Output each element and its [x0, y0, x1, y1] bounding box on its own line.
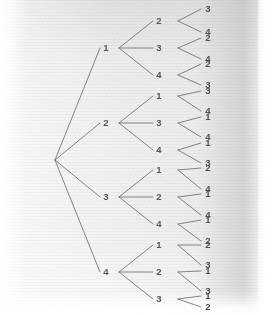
- edge-level2-34-to-leaf-1: [178, 220, 201, 224]
- edge-level2-14-to-leaf-2: [178, 64, 201, 75]
- edge-level2-42-to-leaf-3: [178, 272, 201, 291]
- edge-root-to-level1-3: [55, 160, 100, 197]
- diagram-page: 1234324423213431441331242144124123213312: [0, 0, 277, 315]
- edge-root-to-level1-4: [55, 160, 100, 272]
- leaf-node-431: 1: [205, 290, 211, 301]
- edge-level2-14-to-leaf-3: [178, 75, 201, 85]
- level1-node-4: 4: [103, 266, 109, 277]
- leaf-node-132: 2: [205, 32, 210, 43]
- level2-node-1-4: 4: [156, 69, 162, 80]
- edge-level2-32-to-leaf-4: [178, 197, 201, 215]
- tree-edges: [55, 9, 201, 307]
- edge-level1-1-to-level2-4: [119, 48, 153, 75]
- leaf-node-432: 2: [205, 301, 210, 312]
- edge-level2-12-to-leaf-4: [178, 21, 201, 32]
- edge-level2-31-to-leaf-2: [178, 168, 201, 170]
- edge-level1-3-to-level2-4: [119, 197, 153, 224]
- edge-level2-41-to-leaf-3: [178, 245, 201, 265]
- tree-labels: 1234324423213431441331242144124123213312: [103, 3, 211, 312]
- level1-node-1: 1: [103, 42, 109, 53]
- edge-level2-23-to-leaf-1: [178, 117, 201, 123]
- level2-node-4-1: 1: [156, 239, 162, 250]
- edge-level1-4-to-level2-1: [119, 245, 153, 272]
- level2-node-3-4: 4: [156, 218, 162, 229]
- edge-level2-13-to-leaf-4: [178, 48, 201, 59]
- edge-level2-32-to-leaf-1: [178, 194, 201, 197]
- level2-node-3-1: 1: [156, 164, 162, 175]
- edge-level2-24-to-leaf-1: [178, 143, 201, 150]
- edge-level1-2-to-level2-1: [119, 96, 153, 123]
- leaf-node-412: 2: [205, 239, 210, 250]
- level2-node-1-2: 2: [156, 15, 161, 26]
- edge-level1-4-to-level2-3: [119, 272, 153, 299]
- level2-node-2-3: 3: [156, 117, 161, 128]
- edge-root-to-level1-1: [55, 48, 100, 160]
- edge-level2-12-to-leaf-3: [178, 9, 201, 21]
- edge-level2-42-to-leaf-1: [178, 271, 201, 272]
- leaf-node-321: 1: [205, 188, 211, 199]
- edge-level2-31-to-leaf-4: [178, 170, 201, 189]
- leaf-node-312: 2: [205, 162, 210, 173]
- edge-level2-43-to-leaf-2: [178, 299, 201, 307]
- level2-node-3-2: 2: [156, 191, 161, 202]
- level2-node-2-4: 4: [156, 144, 162, 155]
- level2-node-4-3: 3: [156, 293, 161, 304]
- permutation-tree: 1234324423213431441331242144124123213312: [0, 0, 277, 315]
- edge-level2-21-to-leaf-4: [178, 96, 201, 111]
- edge-level2-21-to-leaf-3: [178, 91, 201, 96]
- edge-level1-3-to-level2-1: [119, 170, 153, 197]
- level2-node-2-1: 1: [156, 90, 162, 101]
- edge-root-to-level1-2: [55, 123, 100, 160]
- edge-level2-23-to-leaf-4: [178, 123, 201, 137]
- leaf-node-421: 1: [205, 265, 211, 276]
- level1-node-3: 3: [103, 191, 108, 202]
- edge-level1-2-to-level2-4: [119, 123, 153, 150]
- level1-node-2: 2: [103, 117, 108, 128]
- leaf-node-241: 1: [205, 137, 211, 148]
- edge-level2-24-to-leaf-3: [178, 150, 201, 163]
- leaf-node-231: 1: [205, 111, 211, 122]
- edge-level2-43-to-leaf-1: [178, 296, 201, 299]
- level2-node-4-2: 2: [156, 266, 161, 277]
- level2-node-1-3: 3: [156, 42, 161, 53]
- edge-level2-13-to-leaf-2: [178, 38, 201, 48]
- leaf-node-213: 3: [205, 85, 210, 96]
- edge-level2-34-to-leaf-2: [178, 224, 201, 241]
- leaf-node-341: 1: [205, 214, 211, 225]
- leaf-node-142: 2: [205, 58, 210, 69]
- leaf-node-123: 3: [205, 3, 210, 14]
- edge-level1-1-to-level2-2: [119, 21, 153, 48]
